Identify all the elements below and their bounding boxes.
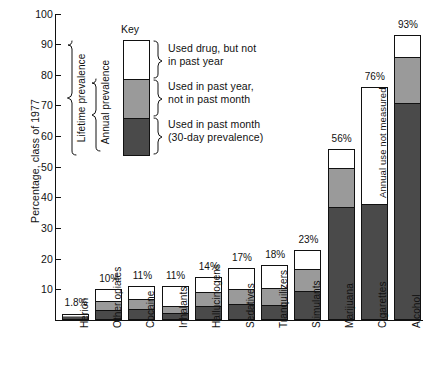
bar-value-inhalants: 11%	[150, 271, 201, 281]
key-label-annual: Used in past year, not in past month	[168, 80, 254, 106]
key-label-lifetime-line2: in past year	[168, 55, 256, 68]
bar-category-cocaine: Cocaine	[146, 291, 156, 328]
bar-marijuana-segment-lifetime	[329, 150, 354, 168]
key-swatch-lifetime	[124, 41, 149, 79]
bar-category-sedatives: Sedatives	[246, 283, 256, 328]
y-axis-tick-10	[55, 289, 61, 290]
key-swatch-past-month	[124, 118, 149, 155]
key-label-annual-line2: not in past month	[168, 93, 254, 106]
bar-alcohol-segment-lifetime	[395, 36, 420, 57]
key-label-annual-line1: Used in past year,	[168, 80, 254, 93]
key-label-past-month: Used in past month (30-day prevalence)	[168, 118, 263, 144]
y-axis-tick-60	[55, 136, 61, 137]
y-axis-tick-100	[55, 14, 61, 15]
bar-category-tranquilizers: Tranquilizers	[279, 270, 289, 328]
bar-alcohol-segment-past-month	[395, 103, 420, 319]
brace-label-annual: Annual prevalence	[100, 52, 111, 152]
y-axis-title: Percentage, class of 1977	[29, 66, 41, 256]
y-axis-tick-30	[55, 228, 61, 229]
key-label-past-month-line2: (30-day prevalence)	[168, 131, 263, 144]
bar-value-alcohol: 93%	[383, 20, 434, 30]
bar-value-cigarettes: 76%	[349, 72, 400, 82]
bar-category-hallucinogens: Hallucinogens	[212, 264, 222, 328]
bar-alcohol-segment-annual	[395, 57, 420, 103]
y-axis-tick-80	[55, 75, 61, 76]
y-axis-tick-40	[55, 197, 61, 198]
y-axis-label-100: 100	[19, 9, 53, 19]
chart-container: 100 90 80 70 60 50 40 30 20 10 Percentag…	[0, 0, 436, 390]
bar-note-cigarettes: Annual use not measured	[378, 87, 388, 198]
bar-category-stimulants: Stimulants	[312, 280, 322, 328]
bar-category-herion: Herion	[80, 298, 90, 328]
bar-stimulants-segment-lifetime	[295, 251, 320, 269]
y-axis-tick-20	[55, 259, 61, 260]
brace-label-lifetime: Lifetime prevalence	[76, 43, 87, 153]
bar-category-inhalants: Inhalants	[179, 287, 189, 329]
bar-alcohol[interactable]	[394, 35, 421, 320]
key-swatch-annual	[124, 79, 149, 118]
bar-category-marijuana: Marijuana	[345, 283, 355, 328]
key-label-lifetime-line1: Used drug, but not	[168, 42, 256, 55]
key-swatch-bar	[123, 40, 150, 156]
y-axis-label-10: 10	[19, 284, 53, 294]
bar-marijuana-segment-annual	[329, 168, 354, 208]
bar-value-tranquilizers: 18%	[250, 250, 301, 260]
key-title: Key	[121, 24, 139, 34]
bar-category-alcohol: Alcohol	[412, 295, 422, 329]
bar-value-marijuana: 56%	[316, 134, 367, 144]
key-label-lifetime: Used drug, but not in past year	[168, 42, 256, 68]
bar-value-stimulants: 23%	[283, 235, 334, 245]
y-axis-tick-50	[55, 167, 61, 168]
x-axis-line	[55, 320, 423, 321]
bar-value-hallucinogens: 14%	[183, 262, 234, 272]
y-axis-tick-90	[55, 44, 61, 45]
y-axis-label-90: 90	[19, 39, 53, 49]
key-label-past-month-line1: Used in past month	[168, 118, 263, 131]
bar-category-cigarettes: Cigarettes	[378, 281, 388, 328]
y-axis-tick-70	[55, 105, 61, 106]
bar-value-herion: 1.8%	[51, 298, 102, 308]
